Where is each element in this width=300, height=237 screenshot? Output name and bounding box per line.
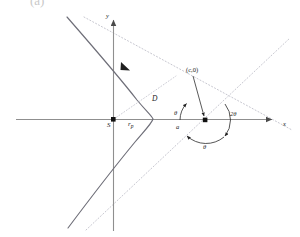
y-axis-label: y [106, 13, 109, 20]
x-axis-label: x [283, 121, 286, 128]
focus-origin-label: S [107, 122, 111, 129]
semi-major-label: a [176, 124, 179, 131]
focus-origin-marker-icon [111, 117, 116, 122]
focus-second-label: (c,0) [186, 67, 198, 74]
focus-label-leader-line [193, 76, 204, 116]
focus-label-leader-group [193, 76, 204, 116]
asymptote-group [84, 17, 292, 230]
curve-direction-arrowhead-icon [121, 62, 131, 71]
angle-arc-theta [180, 104, 187, 121]
periapsis-distance-label: rp [128, 121, 133, 130]
impact-parameter-label: D [152, 95, 157, 103]
angle-arcs-group [180, 104, 231, 144]
periapsis-distance-sub: p [131, 123, 134, 129]
hyperbola-geometry-figure: (a) [0, 0, 300, 237]
theta-lower-label: θ [203, 144, 206, 151]
two-theta-label: 2θ [230, 111, 236, 118]
theta-label: θ [174, 110, 177, 117]
diagram-canvas [0, 0, 300, 237]
focus-second-marker-icon [203, 118, 208, 123]
axes-group [16, 20, 272, 231]
